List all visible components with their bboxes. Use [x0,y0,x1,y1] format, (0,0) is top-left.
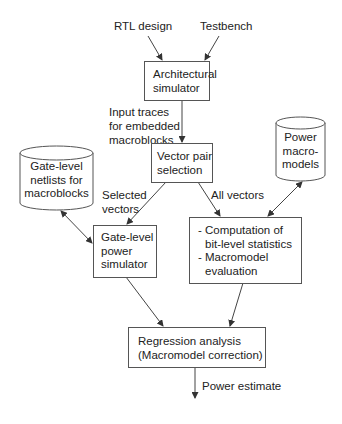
arrow-testbench-to-arch [205,36,219,60]
macromodels-line-2: macro- [276,145,325,159]
macromodels-line-1: Power [276,131,325,145]
selected-vectors-label: Selected vectors [102,188,147,216]
arch-line-1: Architectural [153,68,209,82]
arch-line-2: simulator [153,82,209,96]
input-testbench: Testbench [200,20,252,33]
input-rtl-design: RTL design [114,20,172,33]
computation-box: - Computation of bit-level statistics - … [189,217,302,284]
gatesim-line-2: power [101,245,156,259]
computation-line-1: - Computation of [198,224,301,238]
macromodels-line-3: models [276,158,325,172]
computation-line-4: evaluation [198,265,301,279]
gatesim-line-1: Gate-level [101,231,156,245]
gate-level-netlists-cylinder: Gate-level netlists for macroblocks [20,146,93,211]
arrow-computation-to-regression [230,283,243,326]
all-vectors-label: All vectors [211,189,264,202]
selected-vectors-line-2: vectors [102,202,147,216]
computation-line-3: - Macromodel [198,251,301,265]
netlists-line-3: macroblocks [20,187,93,201]
vector-line-1: Vector pair [157,150,212,164]
selected-vectors-line-1: Selected [102,188,147,202]
netlists-line-2: netlists for [20,174,93,188]
arrow-rtl-to-arch [148,36,162,60]
input-traces-line-1: Input traces [109,105,180,119]
power-estimate-label: Power estimate [202,380,281,393]
gatesim-line-3: simulator [101,258,156,272]
regression-analysis-box: Regression analysis (Macromodel correcti… [128,327,266,368]
regression-line-1: Regression analysis [138,335,265,349]
gate-level-power-simulator-box: Gate-level power simulator [93,225,157,278]
computation-line-2: bit-level statistics [198,238,301,252]
power-macromodels-cylinder: Power macro- models [276,117,325,182]
arrow-gatesim-to-regression [126,277,163,326]
regression-line-2: (Macromodel correction) [138,349,265,363]
input-traces-label: Input traces for embedded macroblocks [109,105,180,147]
arrow-netlists-gatesim [61,211,92,243]
architectural-simulator-box: Architectural simulator [144,61,210,101]
arrow-macromodels-computation [268,182,302,216]
vector-line-2: selection [157,164,212,178]
vector-pair-selection-box: Vector pair selection [151,143,213,183]
input-traces-line-2: for embedded [109,119,180,133]
netlists-line-1: Gate-level [20,160,93,174]
